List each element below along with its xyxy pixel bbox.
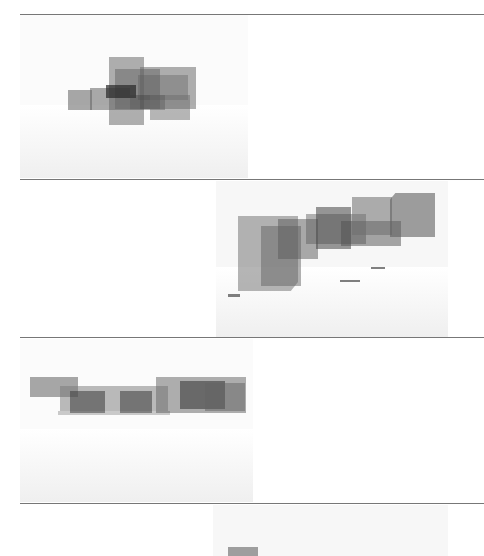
massing-box xyxy=(70,391,105,413)
massing-box xyxy=(352,197,392,235)
separator-rule xyxy=(20,337,484,338)
shadow xyxy=(58,411,170,415)
figure-2 xyxy=(216,181,448,337)
figure-4 xyxy=(213,505,448,556)
shadow xyxy=(371,267,385,269)
figure-3 xyxy=(20,339,253,502)
massing-box xyxy=(68,90,92,110)
ground-plane xyxy=(20,429,253,502)
separator-rule xyxy=(20,179,484,180)
massing-box xyxy=(120,391,152,413)
massing-box xyxy=(150,95,190,120)
shadow xyxy=(340,280,360,282)
massing-box xyxy=(205,383,245,411)
shadow xyxy=(228,294,240,297)
separator-rule xyxy=(20,503,484,504)
massing-box xyxy=(390,193,435,237)
massing-box xyxy=(228,547,258,556)
figure-1 xyxy=(20,15,248,178)
